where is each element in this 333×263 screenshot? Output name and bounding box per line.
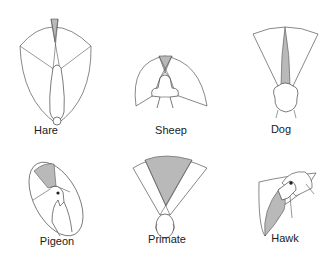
hawk-visual-field <box>259 172 316 236</box>
label-hare: Hare <box>34 124 58 136</box>
label-dog: Dog <box>271 123 291 135</box>
primate-visual-field <box>133 156 207 238</box>
pigeon-visual-field <box>18 153 94 244</box>
label-sheep: Sheep <box>155 124 187 136</box>
hare-visual-field <box>20 19 91 125</box>
sheep-visual-field <box>135 56 207 108</box>
label-hawk: Hawk <box>271 232 299 244</box>
dog-visual-field <box>253 27 318 118</box>
label-pigeon: Pigeon <box>40 235 74 247</box>
visual-fields-diagram: Hare Sheep Dog Pigeon Primate Hawk <box>0 0 333 263</box>
label-primate: Primate <box>148 233 186 245</box>
